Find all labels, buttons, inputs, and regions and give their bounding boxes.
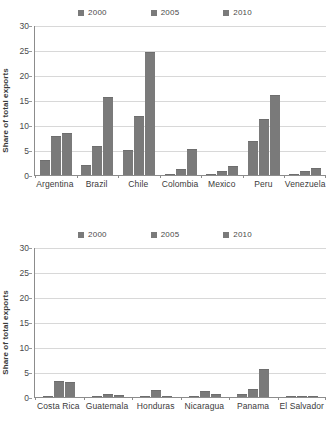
y-axis-tick-label: 30 (20, 243, 29, 253)
y-axis-ticks: 051015202530 (12, 248, 32, 398)
y-axis-title: Share of total exports (0, 50, 11, 170)
x-axis-label: Colombia (159, 179, 201, 189)
bar (237, 394, 247, 397)
y-axis-title-text: Share of total exports (1, 68, 10, 152)
bar (43, 396, 53, 397)
y-axis-ticks: 051015202530 (12, 26, 32, 176)
bar (62, 133, 72, 176)
x-axis-labels: Costa RicaGuatemalaHondurasNicaraguaPana… (34, 401, 326, 411)
plot-area: Share of total exports 051015202530 Arge… (0, 26, 330, 198)
y-axis-tick-label: 5 (24, 368, 29, 378)
legend-swatch-icon (78, 10, 84, 16)
y-axis-tick-label: 20 (20, 71, 29, 81)
bar (151, 390, 161, 398)
legend-label: 2000 (88, 8, 107, 17)
bar (206, 174, 216, 176)
legend-item: 2010 (223, 230, 252, 239)
bar-group (181, 248, 230, 397)
bar (145, 52, 155, 175)
y-axis-title-text: Share of total exports (1, 290, 10, 374)
bar (286, 396, 296, 397)
legend-label: 2005 (161, 8, 180, 17)
bar (308, 396, 318, 397)
x-axis-label: Argentina (34, 179, 76, 189)
y-axis-tick-label: 0 (24, 171, 29, 181)
x-axis-label: Panama (229, 401, 278, 411)
legend-swatch-icon (151, 232, 157, 238)
bar-group (77, 26, 119, 175)
bar-group (278, 248, 327, 397)
legend-label: 2000 (88, 230, 107, 239)
bar (65, 382, 75, 397)
bar (259, 369, 269, 397)
bar-group (160, 26, 202, 175)
legend-swatch-icon (78, 232, 84, 238)
bar (40, 160, 50, 175)
chart-panel-south-america: 200020052010 Share of total exports 0510… (0, 0, 330, 222)
legend-label: 2010 (233, 230, 252, 239)
bar (103, 97, 113, 176)
bar (103, 394, 113, 398)
bar (92, 396, 102, 397)
bar-group (35, 248, 84, 397)
x-axis-label: Chile (117, 179, 159, 189)
bar (228, 166, 238, 175)
legend-swatch-icon (151, 10, 157, 16)
bar (248, 389, 258, 397)
y-axis-tick-label: 0 (24, 393, 29, 403)
bar-group (35, 26, 77, 175)
x-axis-label: Brazil (76, 179, 118, 189)
y-axis-tick-label: 10 (20, 121, 29, 131)
bar (187, 149, 197, 175)
plot-canvas (34, 26, 326, 176)
x-axis-label: Guatemala (83, 401, 132, 411)
legend-item: 2005 (151, 230, 180, 239)
bar (140, 396, 150, 397)
legend-item: 2000 (78, 8, 107, 17)
x-axis-label: El Salvador (277, 401, 326, 411)
x-axis-label: Venezuela (284, 179, 326, 189)
x-axis-label: Costa Rica (34, 401, 83, 411)
plot-area: Share of total exports 051015202530 Cost… (0, 248, 330, 420)
chart-legend: 200020052010 (0, 8, 330, 17)
legend-label: 2005 (161, 230, 180, 239)
bar-group (132, 248, 181, 397)
bar-group (201, 26, 243, 175)
bar (259, 119, 269, 176)
chart-legend: 200020052010 (0, 230, 330, 239)
bar (162, 396, 172, 397)
bar (81, 165, 91, 175)
bar (189, 396, 199, 397)
y-axis-tick-label: 15 (20, 96, 29, 106)
y-axis-tick-label: 25 (20, 46, 29, 56)
plot-canvas (34, 248, 326, 398)
bar-group (229, 248, 278, 397)
y-axis-tick-label: 10 (20, 343, 29, 353)
legend-swatch-icon (223, 232, 229, 238)
bar (211, 394, 221, 398)
bar (217, 171, 227, 175)
y-axis-tick-label: 5 (24, 146, 29, 156)
legend-label: 2010 (233, 8, 252, 17)
bar-groups (35, 26, 326, 175)
x-axis-label: Honduras (131, 401, 180, 411)
y-axis-tick-label: 25 (20, 268, 29, 278)
bar-group (243, 26, 285, 175)
bar (248, 141, 258, 176)
bar-group (118, 26, 160, 175)
bar (165, 174, 175, 176)
bar (176, 169, 186, 176)
y-axis-tick-label: 30 (20, 21, 29, 31)
bar (297, 396, 307, 397)
bar (134, 116, 144, 175)
legend-item: 2010 (223, 8, 252, 17)
bar (51, 136, 61, 175)
bar (300, 171, 310, 176)
bar (114, 395, 124, 398)
legend-item: 2005 (151, 8, 180, 17)
bar (92, 146, 102, 175)
legend-item: 2000 (78, 230, 107, 239)
bar (289, 174, 299, 175)
bar-group (284, 26, 326, 175)
x-axis-labels: ArgentinaBrazilChileColombiaMexicoPeruVe… (34, 179, 326, 189)
